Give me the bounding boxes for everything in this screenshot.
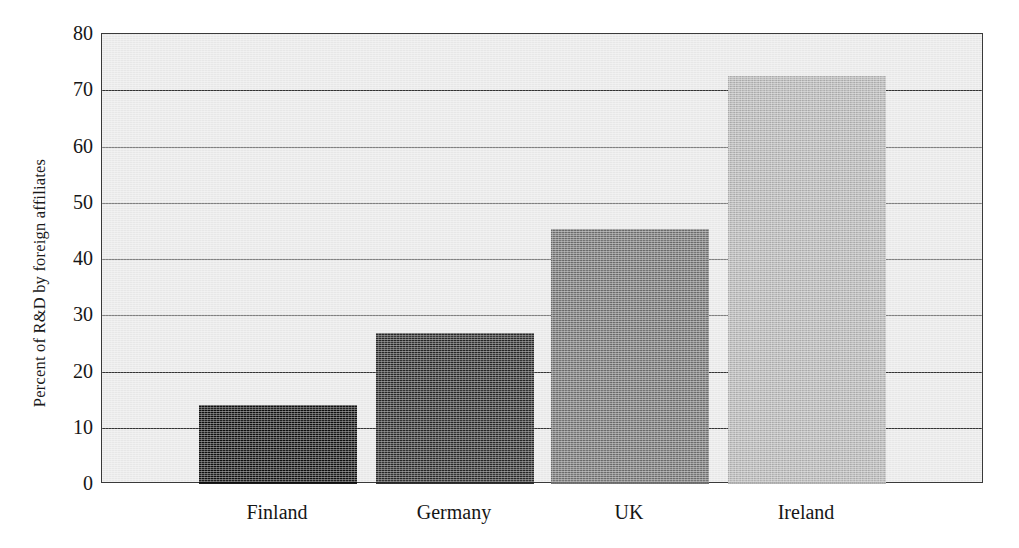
bar-texture (199, 405, 357, 484)
chart-figure: Percent of R&D by foreign affiliates 010… (0, 0, 1019, 548)
y-tick-label-70: 70 (1, 79, 93, 99)
bar-finland (199, 405, 357, 484)
bar-texture (376, 333, 534, 484)
plot-area (101, 33, 983, 483)
y-tick-label-20: 20 (1, 361, 93, 381)
bar-texture (728, 76, 886, 484)
bar-germany (376, 333, 534, 484)
y-tick-label-50: 50 (1, 192, 93, 212)
x-tick-label-ireland: Ireland (778, 502, 835, 522)
y-tick-label-60: 60 (1, 136, 93, 156)
y-tick-label-40: 40 (1, 248, 93, 268)
y-tick-label-0: 0 (1, 473, 93, 493)
bar-texture (551, 229, 709, 484)
bar-ireland (728, 76, 886, 484)
y-tick-label-80: 80 (1, 23, 93, 43)
y-axis-tick-labels: 01020304050607080 (0, 0, 93, 548)
bar-uk (551, 229, 709, 484)
x-tick-label-finland: Finland (246, 502, 307, 522)
x-tick-label-germany: Germany (417, 502, 491, 522)
x-tick-label-uk: UK (615, 502, 644, 522)
y-tick-label-10: 10 (1, 417, 93, 437)
y-tick-label-30: 30 (1, 304, 93, 324)
